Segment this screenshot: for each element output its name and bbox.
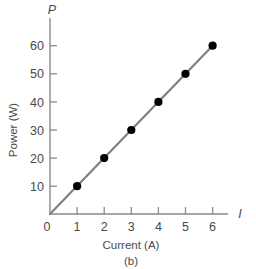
- data-point: [209, 42, 217, 50]
- x-tick-label: 2: [101, 220, 108, 234]
- data-point: [181, 70, 189, 78]
- y-tick-label: 60: [30, 39, 44, 53]
- figure-caption: (b): [124, 255, 138, 267]
- y-axis-title: Power (W): [7, 103, 19, 157]
- x-tick-label: 3: [128, 220, 135, 234]
- x-tick-label: 6: [209, 220, 216, 234]
- x-axis-title: Current (A): [103, 239, 160, 251]
- y-tick-label: 10: [30, 180, 44, 194]
- power-current-chart: 60 50 40 30 20 10 0 1 2 3 4 5 6 P I Powe…: [0, 0, 256, 269]
- x-tick-labels: 0 1 2 3 4 5 6: [44, 220, 217, 234]
- x-tick-label: 0: [44, 220, 51, 234]
- y-tick-label: 20: [30, 152, 44, 166]
- y-tick-label: 30: [30, 124, 44, 138]
- data-point: [127, 126, 135, 134]
- x-axis-symbol: I: [238, 207, 242, 221]
- data-point: [73, 182, 81, 190]
- data-point: [154, 98, 162, 106]
- y-axis-symbol: P: [48, 3, 57, 17]
- x-tick-label: 5: [182, 220, 189, 234]
- y-tick-labels: 60 50 40 30 20 10: [30, 39, 44, 194]
- x-tick-label: 4: [155, 220, 162, 234]
- figure-panel: 60 50 40 30 20 10 0 1 2 3 4 5 6 P I Powe…: [0, 0, 256, 269]
- data-point: [100, 154, 108, 162]
- y-axis-ticks: [50, 46, 57, 187]
- x-tick-label: 1: [74, 220, 81, 234]
- y-tick-label: 40: [30, 96, 44, 110]
- y-tick-label: 50: [30, 67, 44, 81]
- x-axis-ticks: [77, 207, 213, 214]
